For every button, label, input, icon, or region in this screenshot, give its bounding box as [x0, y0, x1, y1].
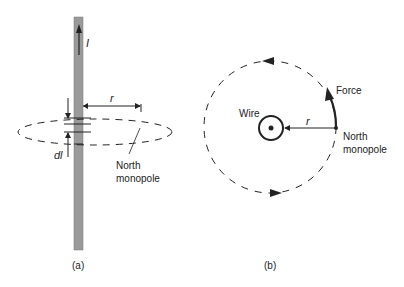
diagram-canvas: I dl r North monopole (a) Wire — [0, 0, 404, 287]
segment-label: dl — [54, 149, 63, 161]
force-arrow-icon — [330, 97, 336, 127]
wire-label: Wire — [239, 108, 260, 119]
radius-label-b: r — [306, 115, 311, 127]
monopole-label-a-line1: North — [116, 160, 140, 171]
dashed-loop — [18, 119, 172, 145]
circulation-arrow-bottom-icon — [270, 189, 282, 197]
monopole-label-b-line1: North — [343, 131, 367, 142]
panel-a: I dl r North monopole (a) — [18, 17, 172, 271]
current-out-dot-icon — [269, 126, 274, 131]
caption-b: (b) — [264, 260, 276, 271]
force-label: Force — [336, 85, 362, 96]
radius-label-a: r — [110, 92, 115, 104]
monopole-label-b-line2: monopole — [343, 144, 387, 155]
circulation-arrow-top-icon — [262, 57, 274, 65]
monopole-label-a-line2: monopole — [116, 173, 160, 184]
current-label: I — [86, 37, 89, 49]
panel-b: Wire r Force North monopole (b) — [204, 57, 387, 271]
caption-a: (a) — [72, 260, 84, 271]
